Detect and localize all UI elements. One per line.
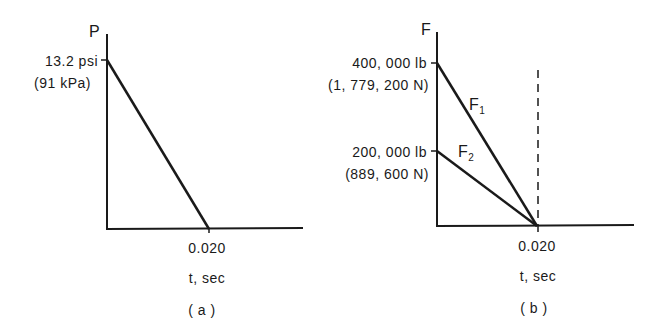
figure-a-x-axis-label: t, sec [189, 270, 225, 286]
figure-b-f1-line [437, 63, 537, 226]
figure-b-y-tick-200k-n: (889, 600 N) [345, 166, 429, 182]
figure-b-y-tick-400k-n: (1, 779, 200 N) [328, 77, 429, 93]
f1-letter: F [469, 96, 479, 113]
figure-a-y-tick-label-kpa: (91 kPa) [34, 75, 91, 91]
f1-subscript: 1 [479, 105, 485, 116]
figure-a-plot [101, 34, 303, 233]
f2-subscript: 2 [468, 152, 474, 163]
figure-a-x-tick-label: 0.020 [188, 240, 226, 256]
figure-b-caption: ( b ) [520, 300, 547, 316]
diagram-canvas [0, 0, 657, 335]
figure-a-pressure-line [107, 60, 209, 229]
figure-b-y-axis-label: F [421, 22, 431, 38]
figure-b-f2-label: F2 [458, 144, 474, 162]
figure-a-caption: ( a ) [188, 302, 215, 318]
figure-b-f1-label: F1 [469, 97, 485, 115]
figure-b-x-tick-label: 0.020 [518, 238, 556, 254]
figure-a-x-axis [106, 228, 303, 229]
figure-b-x-axis-label: t, sec [520, 268, 556, 284]
figure-b-y-tick-200k-lb: 200, 000 lb [352, 144, 427, 160]
figure-a-y-axis-label: P [89, 24, 100, 40]
figure-b-y-tick-400k-lb: 400, 000 lb [352, 55, 427, 71]
f2-letter: F [458, 143, 468, 160]
figure-b-f2-line [437, 151, 537, 226]
figure-a-y-tick-label-psi: 13.2 psi [45, 53, 98, 69]
figure-b-plot [431, 32, 634, 232]
